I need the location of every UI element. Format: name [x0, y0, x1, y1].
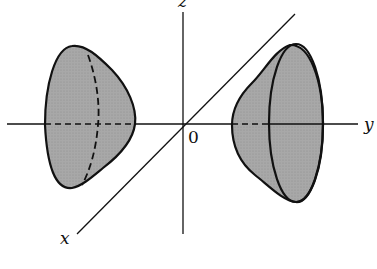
left-sheet: [45, 46, 135, 188]
hyperboloid-diagram: z y x 0: [0, 0, 377, 269]
x-axis-label: x: [60, 228, 70, 248]
diagram-canvas: z y x 0: [0, 0, 377, 269]
origin-label: 0: [188, 127, 199, 147]
right-sheet: [232, 44, 323, 202]
z-axis-label: z: [177, 0, 188, 11]
y-axis-label: y: [363, 114, 374, 134]
